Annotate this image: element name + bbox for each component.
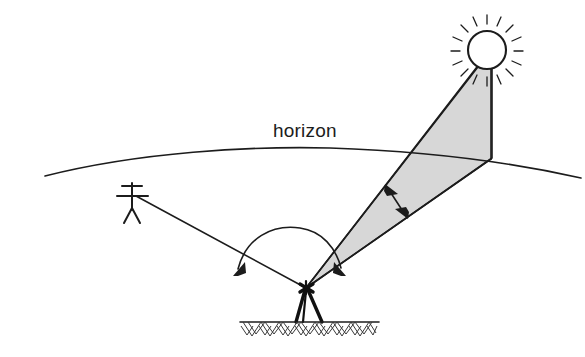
horizon-label: horizon (273, 120, 337, 141)
person-leg-left (124, 208, 132, 223)
sun-disc (468, 31, 506, 69)
horizon-curve (45, 148, 581, 178)
horizon-sun-angle-diagram: horizon (0, 0, 585, 357)
reference-person (117, 183, 148, 223)
tripod-leg-right (308, 290, 322, 322)
sight-line-to-person (136, 196, 306, 288)
sun-shade-wedge (306, 63, 492, 288)
observer-tripod (296, 281, 322, 322)
person-leg-right (132, 208, 140, 223)
diagram-canvas: horizon (0, 0, 585, 357)
ground-hatching (241, 322, 377, 336)
